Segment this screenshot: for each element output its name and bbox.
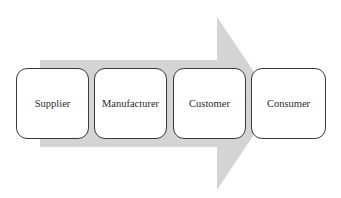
step-supplier: Supplier: [16, 68, 89, 139]
step-label: Manufacturer: [102, 98, 159, 109]
step-label: Consumer: [267, 98, 310, 109]
step-label: Supplier: [35, 98, 71, 109]
step-label: Customer: [189, 98, 230, 109]
step-customer: Customer: [173, 68, 246, 139]
step-consumer: Consumer: [251, 68, 326, 139]
step-manufacturer: Manufacturer: [94, 68, 167, 139]
supply-chain-diagram: Supplier Manufacturer Customer Consumer: [0, 0, 341, 198]
